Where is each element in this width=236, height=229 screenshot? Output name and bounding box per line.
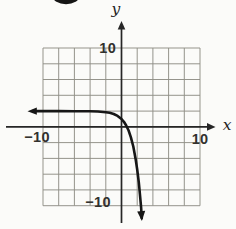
y-axis-label: y — [108, 0, 124, 18]
graph-figure: y x 10 −10 −10 10 — [0, 0, 236, 229]
x-axis-label: x — [219, 116, 235, 134]
y-tick-top: 10 — [92, 39, 116, 57]
plot-canvas — [0, 0, 236, 229]
y-tick-bottom: −10 — [80, 193, 116, 211]
y-axis-arrow — [118, 21, 126, 30]
curve-left-arrow — [28, 108, 37, 115]
curve-bottom-arrow — [137, 211, 145, 221]
cropped-text-fragment — [53, 0, 80, 4]
x-tick-left: −10 — [20, 128, 54, 146]
x-tick-right: 10 — [187, 130, 213, 148]
